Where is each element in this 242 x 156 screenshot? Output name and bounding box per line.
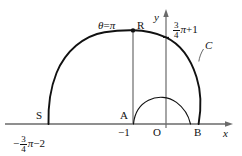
y-axis (163, 9, 168, 128)
y-intercept-value-label: 3 4 π+1 (172, 21, 198, 40)
minus-sign: − (13, 137, 19, 149)
point-label-A: A (120, 110, 128, 121)
theta-equals-pi-label: θ=π (98, 20, 115, 31)
fraction-three-quarters: 3 4 (173, 21, 180, 40)
curve-label-leader (199, 49, 204, 62)
math-figure: θ=π R y 3 4 π+1 C S A −1 O B x − 3 4 π−2 (0, 0, 242, 156)
x-coordinate-A-label: −1 (118, 127, 130, 138)
fraction-denominator: 4 (173, 30, 180, 40)
inner-arc (134, 97, 191, 124)
x-axis-label: x (223, 128, 228, 139)
fraction-three-quarters: 3 4 (20, 135, 27, 154)
point-label-S: S (36, 110, 42, 121)
curve-name-label: C (205, 40, 212, 51)
y-axis-label: y (154, 12, 159, 23)
pi-symbol: π (110, 19, 116, 31)
fraction-numerator: 3 (173, 21, 180, 30)
fraction-denominator: 4 (20, 144, 27, 154)
minus-two-text: −2 (33, 137, 45, 149)
point-R-marker (131, 28, 135, 32)
plus-one-text: +1 (186, 23, 198, 35)
point-label-B: B (194, 127, 201, 138)
origin-label: O (153, 127, 161, 138)
point-label-R: R (137, 20, 144, 31)
x-intercept-S-value-label: − 3 4 π−2 (13, 135, 45, 154)
fraction-numerator: 3 (20, 135, 27, 144)
